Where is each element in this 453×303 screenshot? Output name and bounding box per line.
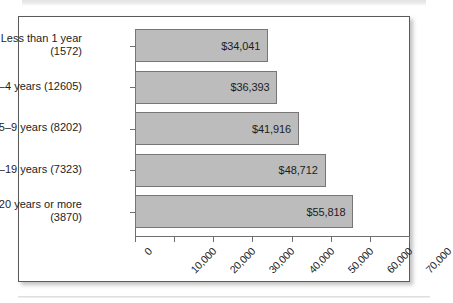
x-axis-tick — [174, 237, 175, 242]
x-axis-tick — [213, 237, 214, 242]
category-label: 10–19 years (7323) — [0, 163, 82, 176]
x-axis-tick — [135, 237, 136, 242]
bar-row[interactable]: $41,916 — [135, 112, 409, 145]
y-axis-tick — [130, 170, 135, 171]
bar-rect[interactable]: $36,393 — [135, 71, 277, 104]
x-axis-tick — [370, 237, 371, 242]
bar-row[interactable]: $48,712 — [135, 154, 409, 187]
x-axis-tick-label: 50,000 — [345, 245, 375, 275]
scan-artifact-bottom-rule — [18, 296, 430, 298]
y-axis-tick — [130, 212, 135, 213]
bar-rect[interactable]: $55,818 — [135, 195, 353, 228]
y-axis-tick — [130, 87, 135, 88]
x-axis-tick-label: 20,000 — [227, 245, 257, 275]
bar-rect[interactable]: $48,712 — [135, 154, 326, 187]
category-label: Less than 1 year (1572) — [0, 32, 82, 58]
bar-rect[interactable]: $34,041 — [135, 29, 268, 62]
bar-value-label: $34,041 — [221, 40, 267, 52]
bar-row[interactable]: $55,818 — [135, 195, 409, 228]
bar-chart: $34,041$36,393$41,916$48,712$55,818 Less… — [19, 17, 409, 281]
bar-row[interactable]: $36,393 — [135, 71, 409, 104]
category-label: 5–9 years (8202) — [0, 121, 82, 134]
x-axis-tick — [331, 237, 332, 242]
bar-rect[interactable]: $41,916 — [135, 112, 299, 145]
chart-figure-frame: $34,041$36,393$41,916$48,712$55,818 Less… — [18, 16, 410, 282]
category-label: 20 years or more (3870) — [0, 198, 82, 224]
bar-value-label: $41,916 — [252, 123, 298, 135]
x-axis-tick-label: 60,000 — [384, 245, 414, 275]
bar-value-label: $36,393 — [230, 81, 276, 93]
x-axis-tick-label: 30,000 — [266, 245, 296, 275]
x-axis-tick-label: 10,000 — [188, 245, 218, 275]
x-axis-tick — [252, 237, 253, 242]
x-axis-line — [135, 236, 410, 237]
scan-artifact-top-band — [22, 0, 426, 6]
y-axis-tick — [130, 129, 135, 130]
bar-row[interactable]: $34,041 — [135, 29, 409, 62]
x-axis-tick-label: 40,000 — [306, 245, 336, 275]
x-axis-tick — [292, 237, 293, 242]
x-axis-tick-label: 0 — [142, 245, 154, 257]
bar-value-label: $48,712 — [279, 164, 325, 176]
x-axis-tick-label: 70,000 — [423, 245, 453, 275]
x-axis-tick — [409, 237, 410, 242]
category-label: 1–4 years (12605) — [0, 80, 82, 93]
bar-value-label: $55,818 — [306, 206, 352, 218]
y-axis-tick — [130, 46, 135, 47]
